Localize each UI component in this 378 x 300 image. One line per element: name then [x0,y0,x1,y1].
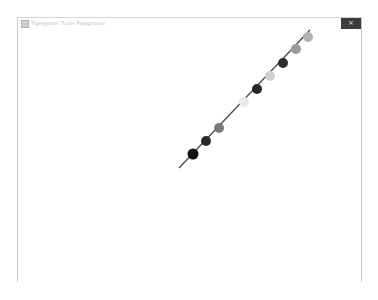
title-bar[interactable]: TigerJython Turtle Playground × [18,18,361,29]
turtle-window: TigerJython Turtle Playground × [17,17,362,282]
window-title: TigerJython Turtle Playground [31,19,105,28]
footer-text [95,291,285,297]
turtle-canvas [18,29,361,282]
app-icon [21,20,29,28]
close-button[interactable]: × [341,18,361,29]
